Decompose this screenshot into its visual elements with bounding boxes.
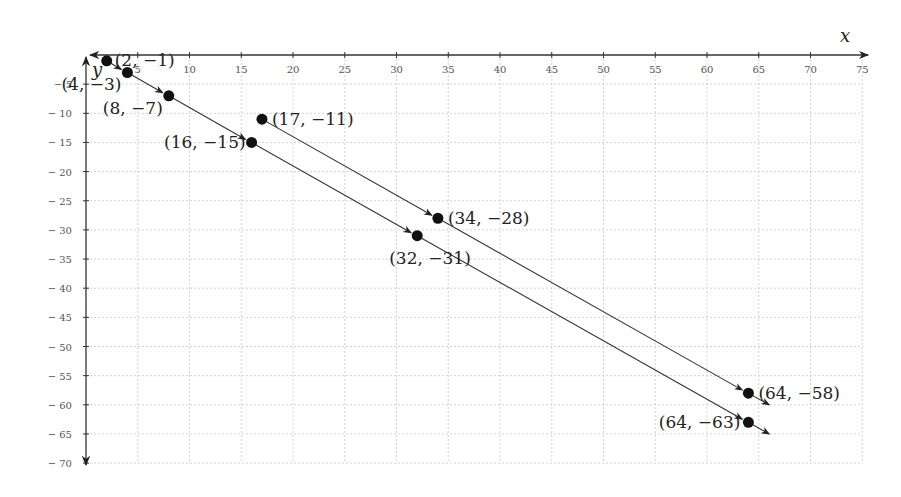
point-label: (64, −58)	[758, 383, 840, 403]
x-tick-label: 35	[442, 64, 455, 75]
point-label: (2, −1)	[115, 50, 175, 70]
data-point	[432, 213, 443, 224]
y-tick-label: − 60	[48, 400, 72, 411]
y-tick-label: − 65	[48, 429, 72, 440]
y-tick-label: − 15	[48, 137, 72, 148]
chart-canvas: 51015202530354045505560657075− 5− 10− 15…	[0, 0, 901, 497]
data-point	[246, 137, 257, 148]
x-tick-label: 60	[701, 64, 714, 75]
point-label: (17, −11)	[272, 109, 354, 129]
y-tick-label: − 70	[48, 458, 72, 469]
point-label: (32, −31)	[389, 248, 471, 268]
y-tick-label: − 10	[48, 108, 72, 119]
data-point	[412, 230, 423, 241]
grid-lines	[86, 55, 862, 463]
x-tick-label: 45	[545, 64, 558, 75]
y-tick-label: − 30	[48, 225, 72, 236]
x-tick-label: 65	[752, 64, 765, 75]
y-tick-label: − 50	[48, 342, 72, 353]
x-tick-label: 55	[649, 64, 662, 75]
point-label: (8, −7)	[103, 98, 163, 118]
x-tick-label: 15	[235, 64, 248, 75]
x-tick-label: 10	[183, 64, 196, 75]
y-axis-title: y	[91, 59, 103, 80]
x-tick-label: 70	[804, 64, 817, 75]
data-point	[101, 55, 112, 66]
data-point	[743, 388, 754, 399]
y-tick-label: − 45	[48, 312, 72, 323]
point-labels: (2, −1)(4, −3)(8, −7)(16, −15)(32, −31)(…	[61, 50, 840, 432]
x-tick-label: 25	[338, 64, 351, 75]
x-tick-label: 50	[597, 64, 610, 75]
y-tick-label: − 55	[48, 371, 72, 382]
x-axis-title: x	[840, 25, 850, 46]
data-point	[256, 114, 267, 125]
data-point	[743, 417, 754, 428]
x-tick-label: 75	[856, 64, 869, 75]
y-tick-label: − 25	[48, 196, 72, 207]
y-tick-label: − 40	[48, 283, 72, 294]
point-label: (16, −15)	[164, 132, 246, 152]
x-tick-label: 20	[287, 64, 300, 75]
y-tick-label: − 20	[48, 167, 72, 178]
point-label: (34, −28)	[448, 208, 530, 228]
x-tick-label: 40	[494, 64, 507, 75]
point-label: (64, −63)	[659, 412, 741, 432]
data-point	[163, 90, 174, 101]
y-tick-label: − 35	[48, 254, 72, 265]
x-tick-label: 30	[390, 64, 403, 75]
